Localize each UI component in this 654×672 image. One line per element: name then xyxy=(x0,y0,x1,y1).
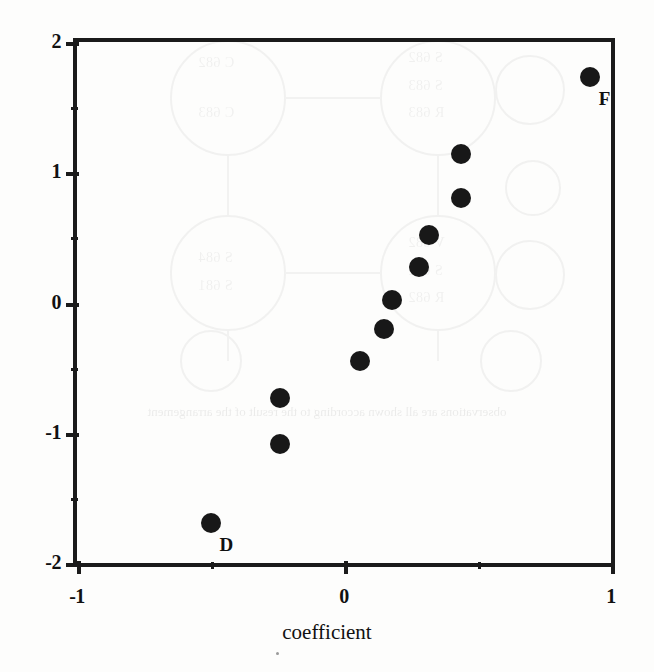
plot-area: 210-1-2-101FD xyxy=(77,42,611,563)
y-axis-tick-label: 0 xyxy=(52,291,62,314)
x-axis-tick-label: -1 xyxy=(69,585,85,608)
x-axis-tick xyxy=(344,561,348,574)
y-axis-tick xyxy=(66,42,79,46)
x-axis-tick xyxy=(611,561,615,574)
y-axis-tick xyxy=(71,498,78,501)
data-point xyxy=(201,513,221,533)
data-point xyxy=(374,319,394,339)
x-axis-tick xyxy=(478,562,481,569)
data-point xyxy=(419,225,439,245)
x-axis-title: coefficient xyxy=(0,620,654,645)
data-point xyxy=(451,188,471,208)
y-axis-tick xyxy=(66,303,79,307)
y-axis-tick-label: -1 xyxy=(45,421,61,444)
y-axis-tick-label: -2 xyxy=(45,551,61,574)
y-axis-tick xyxy=(71,237,78,240)
x-axis-tick-label: 1 xyxy=(606,585,616,608)
scatter-plot-frame: 210-1-2-101FD xyxy=(73,38,615,567)
x-axis-tick xyxy=(77,561,81,574)
data-point xyxy=(350,351,370,371)
data-point xyxy=(409,257,429,277)
data-point xyxy=(580,67,600,87)
data-point-label: F xyxy=(599,88,611,110)
x-axis-tick xyxy=(211,562,214,569)
y-axis-tick-label: 2 xyxy=(52,30,62,53)
y-axis-tick xyxy=(66,433,79,437)
y-axis-tick xyxy=(66,172,79,176)
x-axis-tick-label: 0 xyxy=(339,585,349,608)
data-point xyxy=(270,388,290,408)
data-point-label: D xyxy=(220,534,234,556)
y-axis-tick xyxy=(71,368,78,371)
data-point xyxy=(451,144,471,164)
data-point xyxy=(382,290,402,310)
scan-speck xyxy=(276,652,279,655)
data-point xyxy=(270,434,290,454)
y-axis-tick xyxy=(71,107,78,110)
y-axis-tick-label: 1 xyxy=(52,160,62,183)
